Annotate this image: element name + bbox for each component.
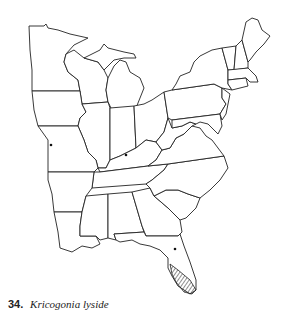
record-dot-missouri <box>50 144 53 147</box>
state-michigan-lower <box>106 60 144 110</box>
range-map <box>0 0 291 325</box>
state-new-york <box>172 48 232 90</box>
state-outlines <box>29 18 270 294</box>
caption-species: Kricogonia lyside <box>30 298 109 310</box>
state-connecticut <box>228 78 248 90</box>
record-dot-kentucky <box>125 154 128 157</box>
state-iowa <box>32 91 86 126</box>
record-dot-florida <box>174 248 177 251</box>
map-caption: 34. Kricogonia lyside <box>8 298 109 310</box>
caption-number: 34. <box>8 298 23 310</box>
state-maine <box>242 18 270 62</box>
